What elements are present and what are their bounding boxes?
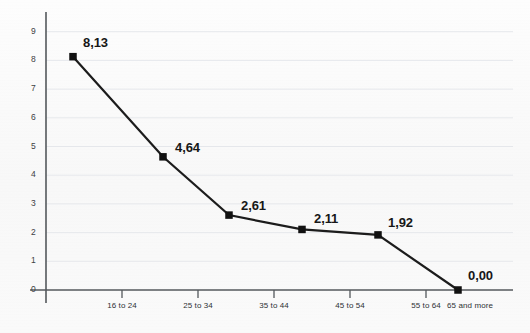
data-value-label: 4,64 <box>175 140 200 155</box>
data-point-marker[interactable] <box>69 53 77 61</box>
x-axis-tick-label: 16 to 24 <box>82 301 162 310</box>
x-axis-tick-label: 25 to 34 <box>158 301 238 310</box>
data-value-label: 0,00 <box>468 268 493 283</box>
y-axis-tick-label: 7 <box>14 83 36 93</box>
data-value-label: 8,13 <box>83 35 108 50</box>
x-axis-tick-label: 35 to 44 <box>234 301 314 310</box>
data-value-label: 1,92 <box>388 215 413 230</box>
gridlines <box>46 32 513 262</box>
x-axis-tick-label: 65 and more <box>430 301 510 310</box>
y-axis-tick-label: 9 <box>14 26 36 36</box>
axis-lines <box>30 12 513 303</box>
y-axis-tick-label: 1 <box>14 255 36 265</box>
data-point-marker[interactable] <box>225 211 233 219</box>
chart-container: 9876543210 16 to 2425 to 3435 to 4445 to… <box>0 0 530 333</box>
data-point-marker[interactable] <box>374 231 382 239</box>
data-value-label: 2,61 <box>241 198 266 213</box>
y-axis-tick-label: 3 <box>14 198 36 208</box>
data-point-marker[interactable] <box>298 226 306 234</box>
data-point-marker[interactable] <box>159 153 167 161</box>
y-axis-tick-label: 8 <box>14 54 36 64</box>
y-axis-tick-label: 4 <box>14 169 36 179</box>
y-axis-tick-label: 2 <box>14 227 36 237</box>
series-line <box>73 57 458 290</box>
chart-canvas <box>0 0 530 333</box>
data-value-label: 2,11 <box>314 211 338 226</box>
y-axis-tick-label: 5 <box>14 141 36 151</box>
y-axis-tick-label: 0 <box>14 284 36 294</box>
x-axis-tick-label: 45 to 54 <box>310 301 390 310</box>
data-point-marker[interactable] <box>454 286 462 294</box>
x-tick-marks <box>122 290 426 298</box>
y-axis-tick-label: 6 <box>14 112 36 122</box>
